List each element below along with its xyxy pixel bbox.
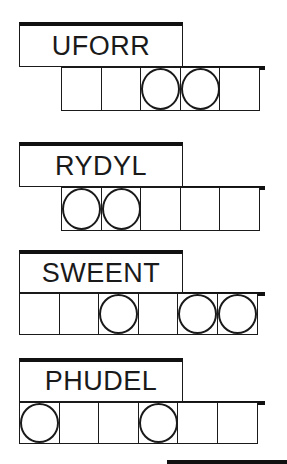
answer-cell[interactable] <box>219 67 260 111</box>
scrambled-word-box: UFORR <box>19 22 183 67</box>
answer-cell-circled[interactable] <box>61 187 102 231</box>
answer-cells <box>19 402 258 444</box>
scrambled-word: RYDYL <box>55 153 147 180</box>
circle-marker-icon <box>102 188 141 230</box>
scrambled-word-box: RYDYL <box>19 142 183 187</box>
scrambled-word: SWEENT <box>42 260 161 287</box>
answer-cell-circled[interactable] <box>138 402 179 444</box>
answer-cell[interactable] <box>59 402 100 444</box>
circle-marker-icon <box>99 294 138 334</box>
answer-cells <box>61 187 260 231</box>
answer-cell[interactable] <box>219 187 260 231</box>
answer-cell-circled[interactable] <box>101 187 142 231</box>
answer-cell[interactable] <box>98 402 139 444</box>
scrambled-word: PHUDEL <box>45 368 158 395</box>
answer-cell[interactable] <box>180 187 221 231</box>
answer-cell[interactable] <box>61 67 102 111</box>
scrambled-word-box: SWEENT <box>19 250 183 293</box>
circle-marker-icon <box>141 68 180 110</box>
scrambled-word-box: PHUDEL <box>19 358 183 402</box>
answer-cell[interactable] <box>59 293 100 335</box>
answer-cell-circled[interactable] <box>180 67 221 111</box>
circle-marker-icon <box>20 403 59 443</box>
final-answer-bar <box>167 460 287 464</box>
circle-marker-icon <box>178 294 217 334</box>
circle-marker-icon <box>218 294 257 334</box>
answer-cells <box>19 293 258 335</box>
answer-cell[interactable] <box>19 293 60 335</box>
circle-marker-icon <box>62 188 101 230</box>
circle-marker-icon <box>181 68 220 110</box>
answer-cell-circled[interactable] <box>177 293 218 335</box>
circle-marker-icon <box>139 403 178 443</box>
answer-cell[interactable] <box>177 402 218 444</box>
answer-cell-circled[interactable] <box>217 293 258 335</box>
answer-cells <box>61 67 260 111</box>
answer-cell[interactable] <box>101 67 142 111</box>
answer-cell-circled[interactable] <box>19 402 60 444</box>
answer-cell[interactable] <box>140 187 181 231</box>
answer-cell[interactable] <box>138 293 179 335</box>
answer-cell[interactable] <box>217 402 258 444</box>
answer-cell-circled[interactable] <box>140 67 181 111</box>
answer-cell-circled[interactable] <box>98 293 139 335</box>
scrambled-word: UFORR <box>52 33 151 60</box>
